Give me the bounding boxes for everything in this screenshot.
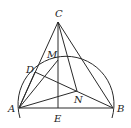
- geometry-diagram: C M D A E N B: [0, 0, 131, 128]
- segment-DA: [19, 72, 35, 108]
- label-E: E: [53, 113, 62, 124]
- label-N: N: [73, 94, 84, 105]
- label-D: D: [25, 64, 34, 75]
- segment-AM: [19, 60, 58, 108]
- label-B: B: [116, 103, 124, 114]
- label-M: M: [46, 49, 58, 60]
- label-A: A: [7, 103, 15, 114]
- label-C: C: [55, 8, 63, 19]
- segment-AN: [19, 91, 77, 108]
